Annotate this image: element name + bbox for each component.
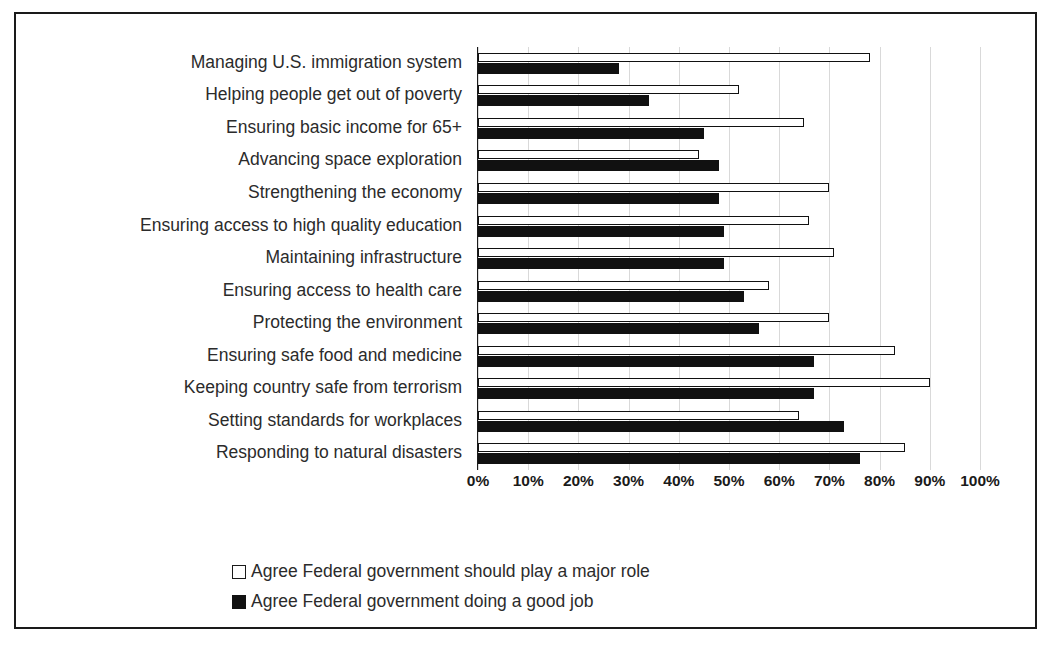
x-tick-label: 20% <box>563 472 594 490</box>
legend-item[interactable]: Agree Federal government doing a good jo… <box>232 587 872 617</box>
bar-good-job <box>478 258 724 269</box>
bar-row <box>478 437 980 470</box>
bar-row <box>478 275 980 308</box>
legend-item[interactable]: Agree Federal government should play a m… <box>232 557 872 587</box>
bar-major-role <box>478 150 699 159</box>
bar-good-job <box>478 421 844 432</box>
x-tick-label: 40% <box>663 472 694 490</box>
filled-square-icon <box>232 595 246 609</box>
bar-major-role <box>478 378 930 387</box>
bar-good-job <box>478 128 704 139</box>
bar-row <box>478 80 980 113</box>
x-tick-label: 80% <box>864 472 895 490</box>
category-label: Maintaining infrastructure <box>266 249 462 267</box>
bar-row <box>478 177 980 210</box>
x-tick-label: 90% <box>914 472 945 490</box>
category-label: Responding to natural disasters <box>216 444 462 462</box>
hollow-square-icon <box>232 565 246 579</box>
category-label: Ensuring basic income for 65+ <box>226 119 462 137</box>
x-axis-tick-labels: 0%10%20%30%40%50%60%70%80%90%100% <box>478 472 980 498</box>
x-tick-label: 60% <box>764 472 795 490</box>
category-label: Managing U.S. immigration system <box>191 54 462 72</box>
bar-row <box>478 210 980 243</box>
bar-major-role <box>478 443 905 452</box>
bar-major-role <box>478 411 799 420</box>
bar-row <box>478 340 980 373</box>
category-label: Strengthening the economy <box>248 184 462 202</box>
bar-good-job <box>478 193 719 204</box>
bar-good-job <box>478 453 860 464</box>
x-tick-label: 100% <box>960 472 1000 490</box>
bar-major-role <box>478 85 739 94</box>
bar-good-job <box>478 95 649 106</box>
bar-major-role <box>478 313 829 322</box>
category-label: Ensuring access to health care <box>223 282 462 300</box>
bar-good-job <box>478 160 719 171</box>
bar-good-job <box>478 63 619 74</box>
category-label: Advancing space exploration <box>238 151 462 169</box>
bar-good-job <box>478 323 759 334</box>
x-tick-label: 50% <box>713 472 744 490</box>
bar-major-role <box>478 346 895 355</box>
bar-major-role <box>478 281 769 290</box>
category-label: Keeping country safe from terrorism <box>184 379 462 397</box>
chart-inner: Managing U.S. immigration systemHelping … <box>16 14 1035 627</box>
bar-good-job <box>478 388 814 399</box>
bar-good-job <box>478 291 744 302</box>
bar-row <box>478 307 980 340</box>
legend-label: Agree Federal government doing a good jo… <box>251 593 593 611</box>
category-label: Protecting the environment <box>253 314 462 332</box>
category-label: Helping people get out of poverty <box>205 86 462 104</box>
chart-figure: Managing U.S. immigration systemHelping … <box>0 0 1053 649</box>
bar-major-role <box>478 248 834 257</box>
x-tick-label: 10% <box>513 472 544 490</box>
x-tick-label: 30% <box>613 472 644 490</box>
chart-frame-border: Managing U.S. immigration systemHelping … <box>14 12 1037 629</box>
bar-good-job <box>478 226 724 237</box>
bar-row <box>478 242 980 275</box>
gridline-100 <box>980 47 981 470</box>
bar-major-role <box>478 53 870 62</box>
bar-good-job <box>478 356 814 367</box>
bar-row <box>478 112 980 145</box>
category-label: Ensuring access to high quality educatio… <box>140 217 462 235</box>
category-label: Setting standards for workplaces <box>208 412 462 430</box>
category-axis-labels: Managing U.S. immigration systemHelping … <box>16 47 474 470</box>
bar-row <box>478 405 980 438</box>
bar-major-role <box>478 216 809 225</box>
plot-area <box>478 47 980 470</box>
x-tick-label: 70% <box>814 472 845 490</box>
x-tick-label: 0% <box>467 472 489 490</box>
legend-label: Agree Federal government should play a m… <box>251 563 650 581</box>
bar-major-role <box>478 118 804 127</box>
bar-row <box>478 47 980 80</box>
bar-major-role <box>478 183 829 192</box>
bar-row <box>478 145 980 178</box>
chart-legend: Agree Federal government should play a m… <box>232 557 872 617</box>
category-label: Ensuring safe food and medicine <box>207 347 462 365</box>
bar-row <box>478 372 980 405</box>
